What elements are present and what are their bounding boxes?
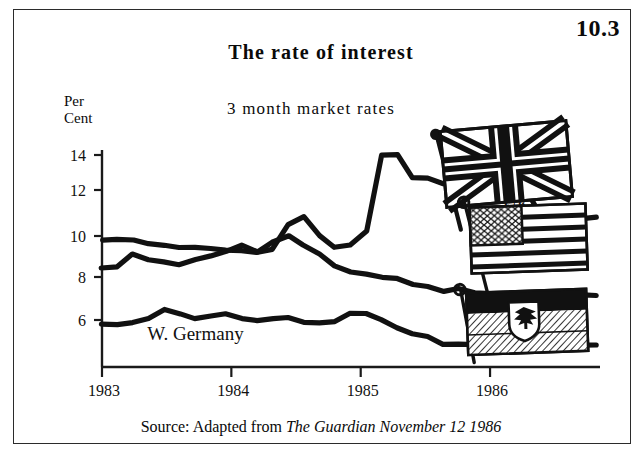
x-axis-ticks [102, 367, 490, 377]
y-tick-label-6: 6 [78, 312, 86, 329]
source-note: Source: Adapted from The Guardian Novemb… [0, 418, 642, 436]
x-tick-label-1984: 1984 [217, 382, 249, 399]
uk-flag-cloth [440, 121, 572, 208]
x-tick-label-1983: 1983 [88, 382, 120, 399]
source-prefix: Source: Adapted from [141, 418, 286, 435]
west-germany-flag [454, 273, 591, 363]
west-germany-flag-cloth [466, 289, 588, 355]
x-tick-label-1986: 1986 [476, 382, 508, 399]
y-tick-label-14: 14 [70, 147, 86, 164]
us-flag-cloth [469, 204, 587, 274]
y-tick-label-10: 10 [70, 228, 86, 245]
x-tick-label-1985: 1985 [347, 382, 379, 399]
x-axis-tick-labels: 1983198419851986 [88, 382, 508, 399]
source-publication: The Guardian November 12 1986 [286, 418, 501, 435]
figure-page: 10.3 The rate of interest 3 month market… [0, 0, 642, 460]
line-chart: 14 12 10 8 6 1983198419851986 UKUSW. Ger… [0, 0, 642, 460]
y-tick-label-12: 12 [70, 182, 86, 199]
y-axis-tick-labels: 14 12 10 8 6 [70, 147, 86, 329]
german-eagle-emblem [508, 302, 539, 342]
y-tick-label-8: 8 [78, 269, 86, 286]
series-label-w-germany: W. Germany [147, 323, 244, 344]
